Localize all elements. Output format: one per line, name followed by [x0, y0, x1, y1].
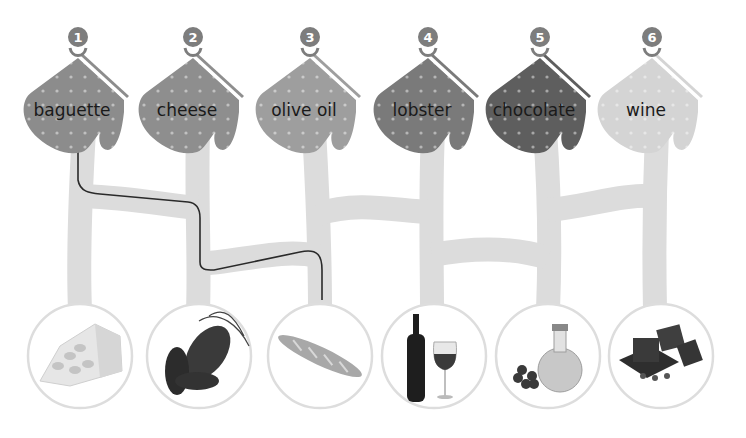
maze-stem-2: [197, 130, 198, 310]
mitt-label: cheese: [157, 100, 217, 120]
mitt-number: 6: [647, 30, 656, 45]
mitt-label: baguette: [33, 100, 110, 120]
hook-loop: [532, 48, 548, 56]
mitt-number: 4: [423, 30, 432, 45]
mitt-3: 3olive oil: [256, 26, 360, 153]
maze-rung-3-4: [318, 207, 432, 214]
maze-stem-6: [654, 130, 657, 310]
mitt-6: 6wine: [598, 26, 702, 153]
maze-diagram: 1baguette2cheese3olive oil4lobster5choco…: [0, 0, 746, 438]
hook-loop: [420, 48, 436, 56]
picture-circle-olive-oil: [496, 304, 600, 408]
picture-circle-lobster: [147, 304, 251, 408]
mitt-label: olive oil: [271, 100, 337, 120]
mitt-5: 5chocolate: [486, 26, 590, 153]
maze-paths: [79, 130, 657, 310]
mitt-4: 4lobster: [374, 26, 478, 153]
mitt-label: lobster: [393, 100, 452, 120]
mitt-number: 2: [188, 30, 197, 45]
picture-circle-baguette: [268, 304, 372, 408]
picture-circle-cheese: [28, 304, 132, 408]
hook-loop: [185, 48, 201, 56]
picture-circle-chocolate: [609, 304, 713, 408]
mitt-label: wine: [626, 100, 666, 120]
maze-rung-5-6: [548, 196, 656, 210]
maze-rung-4-5: [432, 249, 548, 258]
mitt-2: 2cheese: [139, 26, 243, 153]
mitt-number: 3: [305, 30, 314, 45]
picture-circle-wine: [382, 304, 486, 408]
mitt-label: chocolate: [493, 100, 576, 120]
hook-loop: [302, 48, 318, 56]
maze-stem-3: [314, 130, 320, 310]
maze-stem-5: [545, 130, 549, 310]
mitt-number: 5: [535, 30, 544, 45]
mitt-number: 1: [73, 30, 82, 45]
maze-stem-1: [79, 130, 84, 310]
maze-rung-2-3: [198, 254, 318, 264]
mitt-1: 1baguette: [24, 26, 128, 153]
hook-loop: [70, 48, 86, 56]
hook-loop: [644, 48, 660, 56]
